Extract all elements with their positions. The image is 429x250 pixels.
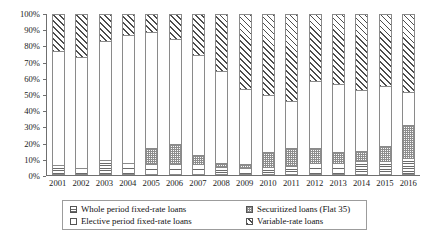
bar-column-2003[interactable]	[94, 14, 117, 175]
bar-segment	[193, 15, 204, 56]
bar-segment	[333, 85, 344, 153]
x-axis-tick-label: 2011	[280, 177, 303, 191]
stacked-bar[interactable]	[75, 14, 88, 175]
bar-segment	[310, 15, 321, 82]
x-axis: 2001200220032004200520062007200820092010…	[46, 177, 420, 191]
x-axis-tick-label: 2016	[397, 177, 420, 191]
x-axis-tick-label: 2004	[116, 177, 139, 191]
stacked-bar[interactable]	[52, 14, 65, 175]
bar-segment	[76, 169, 87, 174]
bar-column-2006[interactable]	[164, 14, 187, 175]
x-axis-tick-label: 2013	[327, 177, 350, 191]
stacked-bar[interactable]	[215, 14, 228, 175]
x-axis-tick-label: 2006	[163, 177, 186, 191]
bar-segment	[146, 33, 157, 150]
legend-item-whole-period-fixed-rate-loans[interactable]: Whole period fixed-rate loans	[70, 204, 246, 214]
legend-item-label: Variable-rate loans	[257, 216, 323, 226]
legend-swatch-icon	[70, 218, 77, 225]
bar-column-2009[interactable]	[234, 14, 257, 175]
plot-area	[46, 14, 420, 176]
stacked-bar[interactable]	[192, 14, 205, 175]
legend-item-elective-period-fixed-rate-loans[interactable]: Elective period fixed-rate loans	[70, 216, 246, 226]
chart-container: 100%90%80%70%60%50%40%30%20%10%0% 200120…	[0, 0, 429, 250]
stacked-bar[interactable]	[402, 14, 415, 175]
stacked-bar[interactable]	[309, 14, 322, 175]
y-axis-tick-label: 10%	[2, 156, 40, 165]
bar-segment	[193, 56, 204, 156]
bar-segment	[170, 15, 181, 40]
bar-segment	[216, 15, 227, 72]
bar-segment	[193, 156, 204, 166]
x-axis-tick-label: 2008	[210, 177, 233, 191]
bar-segment	[240, 90, 251, 166]
bar-column-2001[interactable]	[47, 14, 70, 175]
chart-legend: Whole period fixed-rate loans Securitize…	[62, 200, 367, 230]
bar-segment	[53, 52, 64, 166]
x-axis-tick-label: 2015	[373, 177, 396, 191]
stacked-bar[interactable]	[145, 14, 158, 175]
bar-column-2007[interactable]	[187, 14, 210, 175]
bar-segment	[216, 168, 227, 174]
bar-segment	[146, 15, 157, 32]
bar-segment	[170, 40, 181, 144]
stacked-bar[interactable]	[122, 14, 135, 175]
legend-item-variable-rate-loans[interactable]: Variable-rate loans	[246, 216, 360, 226]
stacked-bar[interactable]	[169, 14, 182, 175]
x-axis-tick-label: 2001	[46, 177, 69, 191]
bar-segment	[403, 159, 414, 174]
bar-segment	[333, 15, 344, 85]
stacked-bar[interactable]	[379, 14, 392, 175]
bar-column-2011[interactable]	[280, 14, 303, 175]
y-axis-tick-label: 90%	[2, 26, 40, 35]
bar-column-2012[interactable]	[303, 14, 326, 175]
x-axis-tick-label: 2007	[186, 177, 209, 191]
bar-segment	[333, 153, 344, 163]
bar-segment	[100, 42, 111, 160]
stacked-bar[interactable]	[332, 14, 345, 175]
bar-segment	[53, 166, 64, 174]
bar-column-2015[interactable]	[373, 14, 396, 175]
legend-row: Whole period fixed-rate loans Securitize…	[70, 204, 360, 214]
x-axis-tick-label: 2014	[350, 177, 373, 191]
bar-column-2004[interactable]	[117, 14, 140, 175]
bar-segment	[286, 167, 297, 174]
y-axis-tick-label: 70%	[2, 58, 40, 67]
legend-item-securitized-loans[interactable]: Securitized loans (Flat 35)	[246, 204, 360, 214]
bar-column-2013[interactable]	[327, 14, 350, 175]
y-axis-tick-label: 60%	[2, 75, 40, 84]
stacked-bar[interactable]	[262, 14, 275, 175]
y-axis-tick-label: 0%	[2, 172, 40, 181]
x-axis-tick-label: 2012	[303, 177, 326, 191]
bar-column-2016[interactable]	[397, 14, 420, 175]
bar-segment	[170, 145, 181, 166]
bar-column-2008[interactable]	[210, 14, 233, 175]
bar-segment	[263, 96, 274, 153]
bar-column-2005[interactable]	[140, 14, 163, 175]
bar-segment	[333, 164, 344, 174]
legend-swatch-icon	[246, 218, 253, 225]
bar-column-2014[interactable]	[350, 14, 373, 175]
bar-segment	[310, 164, 321, 174]
bar-series-group	[47, 14, 420, 175]
legend-swatch-icon	[246, 206, 253, 213]
y-axis-tick-label: 50%	[2, 91, 40, 100]
bar-segment	[286, 149, 297, 166]
stacked-bar[interactable]	[285, 14, 298, 175]
bar-segment	[380, 15, 391, 87]
stacked-bar[interactable]	[355, 14, 368, 175]
legend-row: Elective period fixed-rate loans Variabl…	[70, 216, 360, 226]
bar-segment	[100, 161, 111, 175]
stacked-bar[interactable]	[99, 14, 112, 175]
y-axis-tick-label: 40%	[2, 107, 40, 116]
stacked-bar[interactable]	[239, 14, 252, 175]
bar-segment	[123, 164, 134, 174]
bar-segment	[380, 147, 391, 162]
bar-column-2002[interactable]	[70, 14, 93, 175]
bar-column-2010[interactable]	[257, 14, 280, 175]
bar-segment	[240, 15, 251, 90]
y-axis-tick-label: 100%	[2, 10, 40, 19]
y-axis-tick-label: 80%	[2, 42, 40, 51]
x-axis-tick-label: 2010	[256, 177, 279, 191]
bar-segment	[286, 102, 297, 150]
bar-segment	[380, 162, 391, 174]
